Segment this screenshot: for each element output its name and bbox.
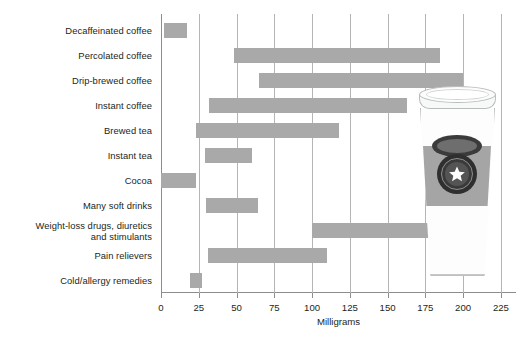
x-axis-tick <box>350 293 351 298</box>
x-axis-tick-label: 50 <box>231 302 242 313</box>
category-label: Brewed tea <box>104 125 152 136</box>
x-axis-title: Milligrams <box>161 316 516 327</box>
bar <box>209 98 407 113</box>
bar <box>206 198 257 213</box>
x-axis-tick-label: 25 <box>193 302 204 313</box>
x-axis-tick <box>501 293 502 298</box>
bar <box>234 48 441 63</box>
category-axis-labels: Decaffeinated coffeePercolated coffeeDri… <box>0 0 158 345</box>
category-label: Pain relievers <box>95 250 153 261</box>
gridline <box>199 14 200 293</box>
x-axis-tick-label: 150 <box>380 302 396 313</box>
x-axis-tick <box>237 293 238 298</box>
x-axis-tick <box>312 293 313 298</box>
category-label: Instant tea <box>108 150 152 161</box>
caffeine-range-chart: Decaffeinated coffeePercolated coffeeDri… <box>0 0 531 345</box>
star-glyph <box>448 165 466 183</box>
x-axis-tick-label: 175 <box>417 302 433 313</box>
cup-lid-inner-oval <box>426 89 489 100</box>
x-axis-tick <box>425 293 426 298</box>
bar <box>190 273 202 288</box>
x-axis-tick-label: 0 <box>158 302 163 313</box>
category-label: Percolated coffee <box>78 50 152 61</box>
gridline <box>501 14 502 293</box>
category-label: Weight-loss drugs, diuretics and stimula… <box>36 220 152 242</box>
x-axis-tick-label: 200 <box>455 302 471 313</box>
x-axis-tick <box>199 293 200 298</box>
x-axis-tick <box>161 293 162 298</box>
bar <box>196 123 340 138</box>
x-axis-tick <box>463 293 464 298</box>
x-axis-tick-label: 75 <box>269 302 280 313</box>
x-axis-tick <box>274 293 275 298</box>
x-axis-tick-label: 100 <box>304 302 320 313</box>
category-label: Drip-brewed coffee <box>72 75 152 86</box>
x-axis-tick-label: 125 <box>342 302 358 313</box>
cup-base-line <box>430 274 485 275</box>
bar <box>205 148 252 163</box>
y-axis-line <box>161 14 162 293</box>
category-label: Cold/allergy remedies <box>60 275 152 286</box>
bar <box>208 248 327 263</box>
bar <box>164 23 187 38</box>
bar <box>161 173 196 188</box>
star-icon <box>445 162 469 186</box>
category-label: Instant coffee <box>95 100 152 111</box>
category-label: Many soft drinks <box>83 200 152 211</box>
x-axis-tick <box>388 293 389 298</box>
coffee-cup-illustration <box>417 86 499 281</box>
x-axis-tick-label: 225 <box>493 302 509 313</box>
category-label: Cocoa <box>125 175 152 186</box>
cup-inner-rim-light <box>437 139 477 153</box>
category-label: Decaffeinated coffee <box>65 25 152 36</box>
